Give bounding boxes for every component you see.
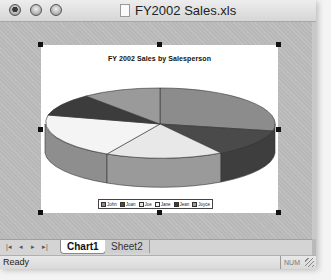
next-sheet-button[interactable]: ▸ — [31, 243, 35, 251]
zoom-button[interactable] — [50, 4, 62, 16]
legend-swatch — [120, 202, 125, 207]
previous-sheet-button[interactable]: ◂ — [19, 243, 23, 251]
close-button[interactable] — [9, 4, 21, 16]
tab-sheet2[interactable]: Sheet2 — [105, 240, 150, 253]
sheet-tab-bar: |◂ ◂ ▸ ▸| Chart1 Sheet2 — [0, 239, 312, 255]
resize-handle-bottom-right[interactable] — [276, 210, 281, 215]
resize-handle-bottom[interactable] — [157, 210, 162, 215]
resize-handle-left[interactable] — [38, 127, 43, 132]
slice-john — [160, 88, 275, 131]
legend-swatch — [155, 202, 160, 207]
last-sheet-button[interactable]: ▸| — [42, 243, 48, 251]
tab-chart1[interactable]: Chart1 — [60, 240, 106, 254]
minimize-button[interactable] — [30, 4, 42, 16]
legend-item: Joan — [120, 202, 136, 207]
legend-swatch — [174, 202, 179, 207]
legend-swatch — [139, 202, 144, 207]
resize-handle-top-left[interactable] — [38, 42, 43, 47]
resize-handle-right[interactable] — [276, 127, 281, 132]
legend-item: Joe — [139, 202, 152, 207]
chart-area[interactable]: FY 2002 Sales by Salesperson — [41, 45, 278, 213]
resize-grip-icon[interactable] — [305, 258, 314, 267]
chart-legend[interactable]: John Joan Joe Jane Jean Joyce — [98, 199, 213, 209]
first-sheet-button[interactable]: |◂ — [6, 243, 12, 251]
legend-item: Jane — [155, 202, 171, 207]
resize-handle-bottom-left[interactable] — [38, 210, 43, 215]
legend-item: John — [101, 202, 117, 207]
legend-swatch — [192, 202, 197, 207]
num-lock-indicator: NUM — [280, 256, 300, 269]
resize-handle-top[interactable] — [157, 42, 162, 47]
window-title: FY2002 Sales.xls — [135, 3, 236, 18]
resize-handle-top-right[interactable] — [276, 42, 281, 47]
legend-item: Joyce — [192, 202, 210, 207]
status-bar: Ready NUM — [0, 255, 316, 269]
legend-item: Jean — [174, 202, 190, 207]
excel-window: FY2002 Sales.xls FY 2002 Sales by Salesp… — [0, 0, 316, 268]
status-text: Ready — [3, 257, 29, 267]
document-icon — [120, 4, 130, 17]
pie-top — [46, 88, 275, 158]
title-bar[interactable]: FY2002 Sales.xls — [0, 0, 316, 22]
pie-chart[interactable] — [41, 45, 278, 213]
legend-swatch — [101, 202, 106, 207]
